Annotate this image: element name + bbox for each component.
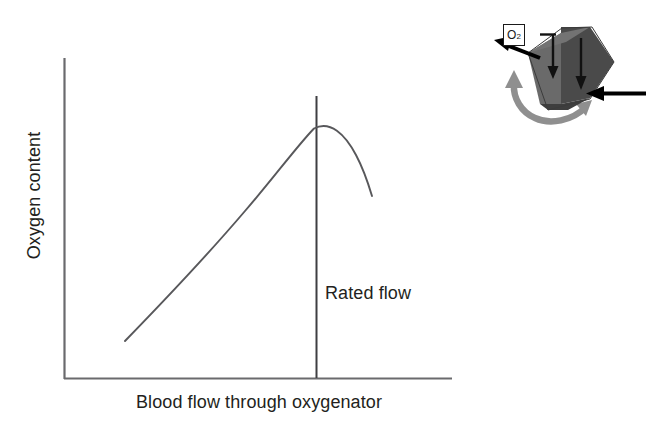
y-axis-label: Oxygen content [24,96,45,296]
o2-gas-label-subscript: 2 [516,33,520,41]
o2-gas-label: O2 [503,24,525,46]
figure-canvas: O2 Blood flow through oxygenator Oxygen … [0,0,646,433]
rated-flow-label: Rated flow [325,283,411,304]
rotation-arrow-head-icon [505,70,523,88]
oxygen-content-curve [125,126,372,341]
chart-svg [0,0,646,433]
x-axis-label: Blood flow through oxygenator [64,392,454,413]
o2-gas-label-text: O [507,29,516,41]
